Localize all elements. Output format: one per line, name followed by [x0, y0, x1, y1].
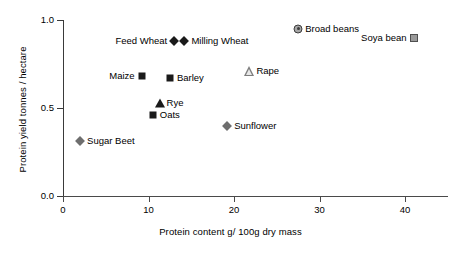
data-point-label: Sugar Beet	[87, 137, 135, 147]
y-axis-line	[63, 20, 64, 197]
data-point-label: Maize	[109, 72, 134, 82]
square-filled-marker-icon	[149, 112, 156, 119]
x-tick-label: 10	[134, 204, 164, 215]
x-tick-label: 30	[305, 204, 335, 215]
square-filled-marker-icon	[166, 75, 173, 82]
x-tick	[405, 197, 406, 202]
diamond-gray-marker-icon	[222, 121, 232, 131]
diamond-filled-marker-icon	[179, 36, 189, 46]
data-point-label: Rye	[167, 98, 184, 108]
x-tick	[63, 197, 64, 202]
x-axis-line	[63, 196, 448, 197]
data-point-label: Barley	[177, 73, 204, 83]
square-gray-marker-icon	[410, 34, 418, 42]
triangle-filled-marker-icon	[155, 98, 165, 107]
x-tick-label: 0	[48, 204, 78, 215]
y-tick	[57, 108, 63, 109]
data-point-label: Broad beans	[305, 24, 359, 34]
diamond-filled-marker-icon	[169, 36, 179, 46]
data-point-label: Milling Wheat	[191, 36, 248, 46]
y-tick	[57, 20, 63, 21]
y-tick-label: 0.0	[28, 190, 54, 201]
data-point-label: Sunflower	[234, 121, 276, 131]
y-tick-label: 1.0	[28, 14, 54, 25]
circle-target-marker-icon	[294, 24, 303, 33]
x-tick	[234, 197, 235, 202]
y-tick-label: 0.5	[28, 102, 54, 113]
x-axis-title: Protein content g/ 100g dry mass	[0, 226, 461, 237]
data-point-label: Soya bean	[361, 33, 406, 43]
data-point-label: Oats	[160, 110, 180, 120]
x-tick-label: 20	[219, 204, 249, 215]
x-tick	[149, 197, 150, 202]
x-tick	[320, 197, 321, 202]
data-point-label: Feed Wheat	[115, 36, 167, 46]
scatter-chart: Protein yield tonnes / hectare Protein c…	[0, 0, 461, 259]
square-filled-marker-icon	[138, 73, 145, 80]
data-point-label: Rape	[256, 66, 279, 76]
y-axis-title: Protein yield tonnes / hectare	[17, 20, 28, 200]
triangle-open-marker-icon	[244, 66, 254, 76]
diamond-gray-marker-icon	[75, 136, 85, 146]
x-tick-label: 40	[390, 204, 420, 215]
